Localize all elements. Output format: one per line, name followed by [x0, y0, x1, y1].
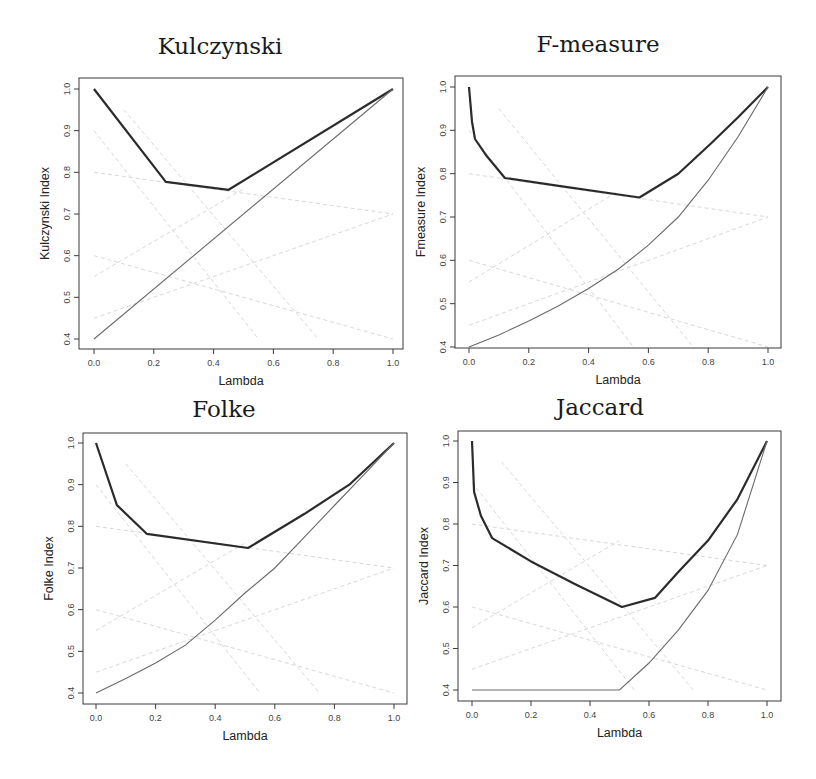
x-tick-label: 0.2: [148, 358, 161, 368]
y-tick-label: 1.0: [66, 437, 76, 450]
background-line: [502, 462, 694, 690]
x-tick-label: 0.8: [328, 713, 341, 723]
background-line: [469, 260, 768, 347]
y-tick-label: 0.4: [441, 684, 451, 697]
y-axis-label: Jaccard Index: [417, 526, 431, 605]
x-tick-label: 0.6: [643, 710, 656, 720]
background-line: [469, 217, 768, 325]
x-axis-label: Lambda: [597, 726, 642, 740]
chart-folke: Folke0.00.20.40.60.81.00.40.50.60.70.80.…: [42, 396, 407, 743]
y-tick-label: 0.8: [441, 518, 451, 531]
y-tick-label: 0.9: [62, 124, 72, 137]
y-tick-label: 1.0: [438, 81, 448, 94]
y-tick-label: 0.8: [438, 167, 448, 180]
background-line: [472, 541, 620, 628]
x-tick-label: 1.0: [387, 358, 400, 368]
x-axis-label: Lambda: [595, 373, 640, 387]
x-tick-label: 0.6: [267, 358, 280, 368]
f-measure-index-line: [469, 87, 768, 198]
f-measure-baseline-line: [469, 87, 768, 347]
y-tick-label: 0.5: [438, 297, 448, 310]
y-axis-label: Fmeasure Index: [414, 166, 428, 257]
y-tick-label: 0.6: [441, 601, 451, 614]
y-tick-label: 1.0: [441, 435, 451, 448]
y-tick-label: 0.9: [438, 124, 448, 137]
y-tick-label: 0.6: [438, 254, 448, 267]
jaccard-baseline-line: [472, 441, 767, 690]
x-tick-label: 0.0: [466, 710, 479, 720]
y-tick-label: 0.4: [438, 341, 448, 354]
y-axis-label: Kulczynski Index: [38, 166, 52, 260]
background-line: [96, 568, 394, 672]
chart-kulczynski: Kulczynski0.00.20.40.60.81.00.40.50.60.7…: [38, 33, 403, 388]
figure-canvas: Kulczynski0.00.20.40.60.81.00.40.50.60.7…: [0, 0, 816, 779]
x-tick-label: 1.0: [388, 713, 401, 723]
x-tick-label: 0.6: [269, 713, 282, 723]
background-line: [126, 464, 320, 693]
x-tick-label: 0.0: [463, 357, 476, 367]
kulczynski-baseline-line: [94, 89, 393, 339]
chart-title: Jaccard: [554, 394, 644, 420]
x-tick-label: 0.4: [584, 710, 597, 720]
y-tick-label: 0.8: [66, 520, 76, 533]
x-tick-label: 0.0: [90, 713, 103, 723]
y-tick-label: 0.6: [62, 249, 72, 262]
x-tick-label: 0.4: [582, 357, 595, 367]
y-tick-label: 0.7: [438, 211, 448, 224]
x-tick-label: 0.2: [149, 713, 162, 723]
plot-frame: [83, 433, 407, 704]
chart-title: Folke: [192, 396, 255, 422]
background-line: [469, 191, 619, 282]
y-tick-label: 1.0: [62, 83, 72, 96]
y-tick-label: 0.7: [62, 208, 72, 221]
x-tick-label: 0.8: [702, 710, 715, 720]
chart-f-measure: F-measure0.00.20.40.60.81.00.40.50.60.70…: [414, 31, 781, 387]
background-line: [96, 610, 394, 693]
jaccard-index-line: [472, 441, 767, 607]
y-tick-label: 0.5: [66, 645, 76, 658]
background-line: [499, 109, 693, 347]
background-line: [124, 110, 318, 339]
background-line: [96, 543, 245, 631]
y-axis-label: Folke Index: [42, 535, 56, 600]
background-line: [472, 607, 767, 690]
x-tick-label: 0.2: [525, 710, 538, 720]
y-tick-label: 0.9: [441, 476, 451, 489]
background-line: [94, 131, 258, 339]
x-tick-label: 0.8: [327, 358, 340, 368]
x-tick-label: 0.8: [702, 357, 715, 367]
background-line: [94, 172, 393, 214]
x-tick-label: 0.4: [207, 358, 220, 368]
background-line: [96, 485, 260, 693]
plot-frame: [458, 431, 781, 701]
background-line: [472, 483, 634, 691]
x-tick-label: 1.0: [761, 710, 774, 720]
x-tick-label: 0.4: [209, 713, 222, 723]
x-tick-label: 1.0: [762, 357, 775, 367]
plot-frame: [79, 78, 403, 349]
background-line: [472, 524, 767, 566]
plot-frame: [455, 76, 781, 348]
chart-title: F-measure: [536, 31, 659, 57]
kulczynski-index-line: [94, 89, 393, 190]
y-tick-label: 0.8: [62, 166, 72, 179]
background-line: [94, 214, 393, 318]
y-tick-label: 0.6: [66, 603, 76, 616]
background-line: [94, 256, 393, 339]
y-tick-label: 0.7: [441, 559, 451, 572]
chart-jaccard: Jaccard0.00.20.40.60.81.00.40.50.60.70.8…: [417, 394, 781, 740]
y-tick-label: 0.4: [66, 687, 76, 700]
background-line: [472, 566, 767, 670]
folke-baseline-line: [96, 443, 394, 693]
x-axis-label: Lambda: [222, 729, 267, 743]
x-tick-label: 0.2: [523, 357, 536, 367]
chart-title: Kulczynski: [158, 33, 283, 59]
x-tick-label: 0.0: [88, 358, 101, 368]
x-axis-label: Lambda: [218, 374, 263, 388]
x-tick-label: 0.6: [642, 357, 655, 367]
y-tick-label: 0.5: [441, 642, 451, 655]
y-tick-label: 0.7: [66, 562, 76, 575]
y-tick-label: 0.5: [62, 291, 72, 304]
y-tick-label: 0.9: [66, 478, 76, 491]
y-tick-label: 0.4: [62, 333, 72, 346]
